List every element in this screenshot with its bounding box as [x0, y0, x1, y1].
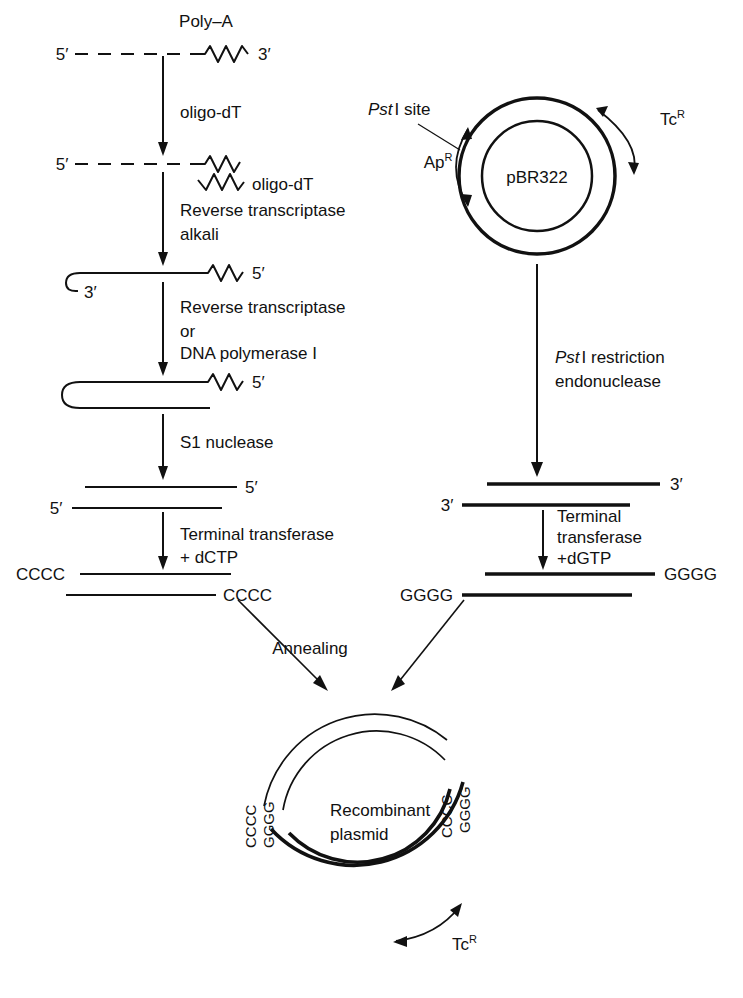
insert-outer-arc [264, 714, 447, 806]
five-prime-label-step2: 5′ [252, 264, 265, 283]
five-prime-bottom-step4: 5′ [50, 499, 63, 518]
arrow-label-or: or [180, 322, 195, 341]
arrow-label-reverse-transcriptase-2: Reverse transcriptase [180, 298, 345, 317]
tcr-label-plasmid: TcR [660, 108, 685, 129]
blunt-duplex-step4: 5′ 5′ [50, 478, 258, 518]
arrow-label-dna-polymerase: DNA polymerase I [180, 344, 317, 363]
arrow-label-alkali: alkali [180, 225, 219, 244]
recombinant-title-line1: Recombinant [330, 801, 430, 820]
oligo-dt-label-step1: oligo-dT [252, 175, 313, 194]
recombinant-left-tail-inner: GGGG [260, 801, 277, 848]
polya-label: Poly–A [179, 12, 234, 31]
tcr-recombinant-head-left [393, 936, 407, 947]
tcr-label-recombinant: TcR [452, 933, 477, 954]
arrow-label-endonuclease: endonuclease [555, 372, 661, 391]
hairpin-loop-icon [62, 382, 210, 408]
gggg-tail-bottom: GGGG [400, 586, 453, 605]
polya-zigzag-icon-step3 [200, 374, 243, 390]
annealing-label: Annealing [272, 639, 348, 658]
cccc-tail-bottom: CCCC [223, 586, 272, 605]
five-prime-label-step3: 5′ [252, 373, 265, 392]
arrow-label-dgtp: +dGTP [557, 549, 611, 568]
five-prime-label-step0: 5′ [56, 45, 69, 64]
tcr-arc-recombinant [396, 906, 460, 941]
five-prime-top-step4: 5′ [245, 478, 258, 497]
apr-label: ApR [424, 151, 453, 172]
recombinant-left-tail-outer: CCCC [242, 805, 259, 848]
annealing-arrow-right-line [397, 600, 464, 684]
five-prime-label-step1: 5′ [56, 155, 69, 174]
arrow-label-s1-nuclease: S1 nuclease [180, 433, 274, 452]
cccc-tail-top: CCCC [16, 565, 65, 584]
double-stranded-hairpin-step3: 5′ [62, 373, 265, 408]
tcr-arrow-head-bottom [628, 162, 639, 175]
recombinant-plasmid: Recombinant plasmid CCCC GGGG GGGG CCCC … [242, 714, 477, 954]
polya-zigzag-icon-step1 [195, 156, 240, 172]
pbr322-plasmid: pBR322 PstI site ApR TcR [368, 98, 685, 254]
arrow-label-reverse-transcriptase: Reverse transcriptase [180, 201, 345, 220]
arrow-terminal-transferase-dgtp: Terminal transferase +dGTP [538, 507, 642, 570]
polya-zigzag-icon [195, 46, 248, 62]
arrow-oligo-dt: oligo-dT [158, 56, 241, 156]
three-prime-label-step2: 3′ [84, 283, 97, 302]
arrow-reverse-transcriptase-or-polymerase: Reverse transcriptase or DNA polymerase … [158, 282, 345, 376]
arrow-label-oligo-dt: oligo-dT [180, 103, 241, 122]
pst-site-leader-line [418, 124, 460, 150]
insert-inner-arc [283, 731, 445, 810]
arrow-label-terminal-right: Terminal [557, 507, 621, 526]
arrow-s1-nuclease: S1 nuclease [158, 414, 274, 480]
pst-site-label: PstI site [368, 100, 430, 119]
arrow-pst-restriction: PstI restriction endonuclease [531, 264, 665, 477]
recombinant-right-tail-inner: CCCC [438, 795, 455, 838]
arrow-terminal-transferase-dctp: Terminal transferase + dCTP [158, 512, 334, 570]
three-prime-top-vector: 3′ [670, 475, 683, 494]
tcr-arrow-head-top [596, 106, 608, 117]
oligodt-zigzag-icon [198, 174, 244, 190]
cdna-hairpin-strand-step2: 5′ 3′ [66, 264, 265, 302]
gggg-tail-top: GGGG [664, 565, 717, 584]
three-prime-label-step0: 3′ [258, 45, 271, 64]
arrow-label-pst-restriction: PstI restriction [555, 348, 665, 367]
g-tailed-vector: GGGG GGGG [400, 565, 717, 605]
arrow-label-transferase-right: transferase [557, 528, 642, 547]
recombinant-title-line2: plasmid [330, 825, 389, 844]
polya-zigzag-icon-step2 [200, 265, 243, 281]
c-tailed-cdna-step5: CCCC CCCC [16, 565, 272, 605]
three-prime-bottom-vector: 3′ [441, 496, 454, 515]
mrna-oligodt-strand-step1: 5′ oligo-dT [56, 155, 314, 194]
annealing-arrows: Annealing [238, 600, 464, 691]
arrow-label-terminal-transferase-left: Terminal transferase [180, 525, 334, 544]
arrow-label-dctp: + dCTP [180, 548, 238, 567]
plasmid-name-label: pBR322 [506, 168, 567, 187]
recombinant-right-tail-outer: GGGG [456, 786, 473, 833]
cdna-cloning-diagram: 5′ Poly–A 3′ oligo-dT 5′ oligo-dT Revers… [0, 0, 743, 998]
